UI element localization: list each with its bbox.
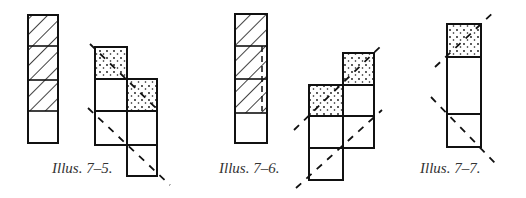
- caption-illus-7-7: Illus. 7–7.: [420, 160, 480, 177]
- net-grid: [294, 45, 382, 188]
- caption-illus-7-6: Illus. 7–6.: [219, 160, 279, 177]
- hatched-column: [28, 15, 58, 143]
- caption-illus-7-5: Illus. 7–5.: [52, 160, 112, 177]
- illus-7-7: [431, 10, 496, 163]
- hatched-column: [235, 14, 267, 143]
